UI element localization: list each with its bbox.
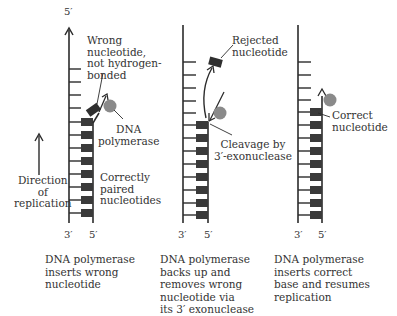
dna-polymerase-label: DNA polymerase <box>98 124 159 147</box>
direction-arrow <box>35 134 43 175</box>
panel-3-caption: DNA polymerase inserts correct base and … <box>274 253 370 303</box>
panel-2-caption: DNA polymerase backs up and removes wron… <box>160 253 254 316</box>
direction-of-replication-label: Direction of replication <box>14 175 71 210</box>
panel-1-caption: DNA polymerase inserts wrong nucleotide <box>45 253 135 291</box>
panel-3-3prime: 3′ <box>294 229 303 240</box>
panel-2-5prime: 5′ <box>204 229 213 240</box>
panel-1-5prime: 5′ <box>89 229 98 240</box>
correctly-paired-label: Correctly paired nucleotides <box>100 172 161 207</box>
wrong-nucleotide-label: Wrong nucleotide, not hydrogen- bonded <box>87 35 162 81</box>
panel-1-top-5prime: 5′ <box>64 6 73 17</box>
correct-nucleotide-label: Correct nucleotide <box>332 110 388 133</box>
panel-2-3prime: 3′ <box>178 229 187 240</box>
panel-3-strands <box>298 25 337 223</box>
panel-3-5prime: 5′ <box>318 229 327 240</box>
cleavage-label: Cleavage by 3′-exonuclease <box>214 139 292 162</box>
panel-2-strands <box>183 25 233 223</box>
rejected-nucleotide-label: Rejected nucleotide <box>232 35 288 58</box>
panel-1-3prime: 3′ <box>64 229 73 240</box>
